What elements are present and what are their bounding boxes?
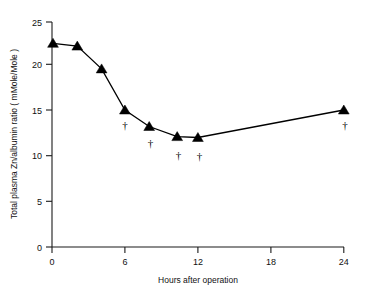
dagger-annotation: † [148, 137, 154, 149]
x-tick-label-6: 6 [122, 257, 127, 267]
x-tick-label-24: 24 [339, 257, 349, 267]
data-point-marker [144, 122, 155, 131]
data-series-line [53, 43, 344, 137]
x-tick-label-0: 0 [49, 257, 54, 267]
data-point-marker [338, 105, 349, 114]
dagger-annotation: † [342, 119, 348, 131]
data-point-marker [48, 38, 59, 47]
y-tick-label-25: 25 [32, 18, 42, 28]
x-axis-title: Hours after operation [158, 275, 238, 285]
y-tick-label-0: 0 [37, 243, 42, 253]
dagger-annotation: † [197, 150, 203, 162]
chart-figure: 0 5 10 15 20 25 0 6 12 18 24 Hours after… [0, 0, 369, 300]
y-tick-label-10: 10 [32, 151, 42, 161]
data-point-marker [172, 132, 183, 141]
data-point-marker [120, 105, 131, 114]
line-chart: 0 5 10 15 20 25 0 6 12 18 24 Hours after… [0, 0, 369, 300]
dagger-annotation: † [122, 119, 128, 131]
x-tick-label-18: 18 [266, 257, 276, 267]
y-axis-title: Total plasma Zn/albumin ratio ( mMole/Mo… [9, 49, 19, 219]
y-tick-label-5: 5 [37, 197, 42, 207]
dagger-annotation: † [176, 149, 182, 161]
y-tick-label-20: 20 [32, 60, 42, 70]
y-tick-label-15: 15 [32, 106, 42, 116]
x-tick-label-12: 12 [193, 257, 203, 267]
